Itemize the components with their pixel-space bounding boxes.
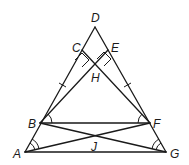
label-E: E <box>111 41 120 55</box>
label-A: A <box>12 147 21 161</box>
angle-arc-G-1 <box>156 143 161 150</box>
label-B: B <box>28 117 36 131</box>
geometry-diagram: D C E H B F A G J <box>0 0 189 165</box>
angle-arc-A-1 <box>30 143 35 150</box>
segment-BE <box>40 50 108 123</box>
label-G: G <box>170 147 179 161</box>
angle-arc-A-2 <box>32 139 39 149</box>
angle-arc-F <box>138 114 142 123</box>
label-F: F <box>153 117 161 131</box>
angle-arc-B <box>48 114 52 123</box>
segment-FC <box>82 50 150 123</box>
label-C: C <box>72 41 81 55</box>
segment-AF <box>25 123 150 152</box>
segment-BG <box>40 123 166 152</box>
angle-arc-G-2 <box>152 139 159 149</box>
tick-mark-BC <box>59 83 66 87</box>
label-J: J <box>90 140 98 154</box>
label-D: D <box>91 11 100 25</box>
label-H: H <box>91 71 100 85</box>
